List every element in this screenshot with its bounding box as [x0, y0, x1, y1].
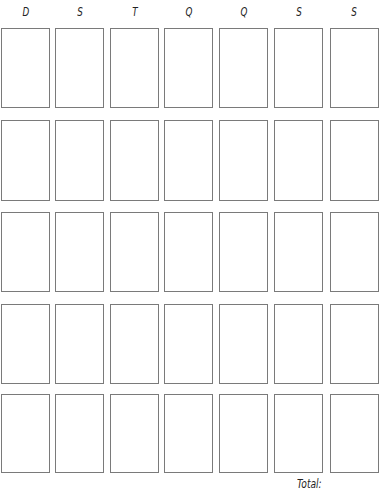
grid-cell: [330, 304, 379, 384]
grid-cell: [219, 212, 268, 292]
grid-cell: [1, 120, 50, 201]
grid-cell: [110, 304, 159, 384]
grid-cell: [330, 120, 379, 201]
grid-cell: [274, 212, 323, 292]
grid-cell: [274, 304, 323, 384]
grid-cell: [110, 28, 159, 108]
grid-cell: [1, 394, 50, 473]
grid-cell: [274, 394, 323, 473]
grid-cell: [110, 120, 159, 201]
grid-cell: [1, 212, 50, 292]
grid-cell: [219, 394, 268, 473]
grid-cell: [330, 28, 379, 108]
grid-cell: [274, 120, 323, 201]
grid-cell: [219, 304, 268, 384]
grid-cell: [164, 304, 213, 384]
grid-cell: [164, 394, 213, 473]
day-header-1: D: [7, 4, 45, 19]
grid-cell: [330, 394, 379, 473]
grid-cell: [330, 212, 379, 292]
grid-cell: [164, 28, 213, 108]
grid-cell: [219, 120, 268, 201]
total-label: Total:: [297, 476, 322, 491]
grid-cell: [110, 394, 159, 473]
grid-cell: [110, 212, 159, 292]
day-header-4: Q: [170, 4, 208, 19]
grid-cell: [55, 212, 104, 292]
grid-cell: [164, 212, 213, 292]
grid-cell: [164, 120, 213, 201]
grid-cell: [55, 304, 104, 384]
grid-cell: [274, 28, 323, 108]
grid-cell: [1, 304, 50, 384]
grid-cell: [219, 28, 268, 108]
grid-cell: [55, 394, 104, 473]
grid-cell: [1, 28, 50, 108]
day-header-7: S: [335, 4, 373, 19]
grid-cell: [55, 28, 104, 108]
day-header-2: S: [61, 4, 99, 19]
day-header-3: T: [116, 4, 154, 19]
day-header-6: S: [280, 4, 318, 19]
grid-cell: [55, 120, 104, 201]
day-header-5: Q: [225, 4, 263, 19]
